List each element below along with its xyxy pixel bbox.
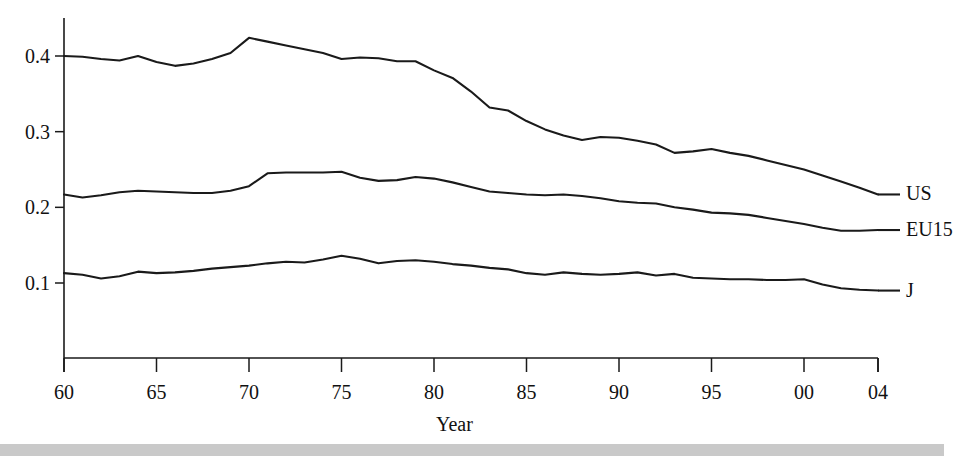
x-tick-label: 80 [409,382,459,402]
x-tick-label: 95 [687,382,737,402]
x-tick-marks [64,358,878,372]
y-tick-label: 0.4 [8,46,50,66]
x-tick-label: 65 [132,382,182,402]
x-tick-label: 00 [779,382,829,402]
series-line-eu15 [64,172,878,231]
x-tick-label: 75 [317,382,367,402]
x-axis-title: Year [436,414,473,434]
x-tick-label: 60 [39,382,89,402]
x-tick-label: 85 [502,382,552,402]
x-tick-label: 70 [224,382,274,402]
y-tick-label: 0.3 [8,122,50,142]
series-line-us [64,38,878,195]
y-tick-marks [55,56,64,283]
series-group [64,38,878,291]
page-footer-bar [0,444,944,456]
axes-group [55,18,878,372]
x-tick-label: 04 [853,382,903,402]
series-label-leaders [878,194,900,290]
y-tick-label: 0.2 [8,197,50,217]
series-label-j: J [906,280,914,300]
series-label-eu15: EU15 [906,219,953,239]
series-label-us: US [906,183,932,203]
series-line-j [64,256,878,291]
y-tick-label: 0.1 [8,273,50,293]
x-tick-label: 90 [594,382,644,402]
